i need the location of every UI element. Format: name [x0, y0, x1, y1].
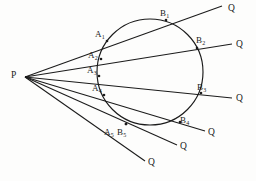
far-intersection-label-b2: B2 — [196, 36, 205, 45]
far-intersection-label-b2-subscript: 2 — [202, 40, 205, 46]
near-intersection-label-a5: A5 — [104, 128, 114, 137]
ray-2-far-point — [196, 47, 199, 50]
geometry-figure: PA1B1QA2B2QA3B3QA4B4QA5B5QQ — [0, 0, 256, 181]
ray-2-near-point — [100, 58, 103, 61]
far-intersection-label-b4: B4 — [180, 116, 189, 125]
far-intersection-label-b3: B3 — [197, 83, 206, 92]
ray-5-endpoint-label-q: Q — [180, 142, 187, 152]
near-intersection-label-a2: A2 — [88, 51, 98, 60]
near-intersection-label-a1: A1 — [95, 30, 105, 39]
near-intersection-label-a1-subscript: 1 — [102, 34, 105, 40]
circle-outline — [97, 19, 203, 125]
ray-1-far-point — [165, 19, 168, 22]
ray-4-endpoint-label-q: Q — [208, 128, 215, 138]
near-intersection-label-a2-subscript: 2 — [95, 55, 98, 61]
ray-5-far-point — [125, 123, 128, 126]
intersection-dots-group — [98, 19, 203, 126]
ray-4 — [25, 77, 205, 131]
ray-6 — [25, 77, 145, 161]
far-intersection-label-b4-subscript: 4 — [186, 120, 189, 126]
near-intersection-label-a4: A4 — [92, 84, 102, 93]
near-intersection-label-a3-subscript: 3 — [94, 70, 97, 76]
far-intersection-label-b1-subscript: 1 — [166, 13, 169, 19]
near-intersection-label-a5-subscript: 5 — [111, 132, 114, 138]
near-intersection-label-a3: A3 — [87, 66, 97, 75]
ray-3-near-point — [98, 75, 101, 78]
ray-2 — [25, 44, 232, 77]
ray-1-endpoint-label-q: Q — [228, 4, 235, 14]
vertex-label-p: P — [11, 71, 16, 81]
ray-2-endpoint-label-q: Q — [236, 40, 243, 50]
far-intersection-label-b5-subscript: 5 — [123, 132, 126, 138]
ray-3-endpoint-label-q: Q — [236, 94, 243, 104]
ray-4-near-point — [103, 94, 106, 97]
far-intersection-label-b3-subscript: 3 — [203, 87, 206, 93]
figure-canvas — [0, 0, 256, 181]
ray-1-near-point — [106, 40, 109, 43]
ray-1 — [25, 6, 222, 77]
far-intersection-label-b5: B5 — [117, 128, 126, 137]
ray-3-far-point — [200, 92, 203, 95]
ray-6-endpoint-label-q: Q — [148, 158, 155, 168]
near-intersection-label-a4-subscript: 4 — [99, 88, 102, 94]
far-intersection-label-b1: B1 — [160, 9, 169, 18]
